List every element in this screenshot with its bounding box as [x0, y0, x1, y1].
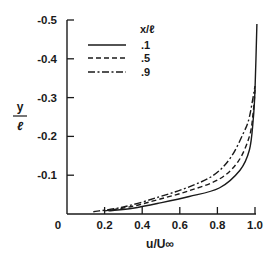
legend-label-2: .5	[141, 52, 150, 64]
axes	[67, 20, 256, 214]
y-tick-label: -0.1	[37, 169, 57, 181]
y-tick-label: -0.5	[37, 14, 57, 26]
y-tick-label: -0.3	[37, 92, 57, 104]
x-axis-label: u/U∞	[146, 237, 174, 251]
y-axis-label-numerator: y	[17, 100, 24, 114]
x-ticks: 00.20.40.60.81.0	[55, 207, 263, 231]
series-line-dashed	[105, 90, 255, 211]
legend-title: x/ℓ	[140, 23, 155, 35]
series-line-dash-dot	[93, 86, 255, 212]
y-ticks: -0.1-0.2-0.3-0.4-0.5	[37, 14, 74, 181]
legend: x/ℓ .1 .5 .9	[88, 23, 155, 78]
y-tick-label: -0.2	[37, 130, 57, 142]
y-axis-label: y ℓ	[13, 100, 27, 133]
chart: -0.1-0.2-0.3-0.4-0.5 00.20.40.60.81.0 y …	[0, 0, 274, 258]
series-group	[93, 24, 257, 212]
y-axis-label-denominator: ℓ	[17, 119, 24, 133]
y-tick-label: -0.4	[37, 53, 57, 65]
x-tick-label: 0.2	[97, 219, 113, 231]
legend-label-3: .9	[141, 66, 150, 78]
x-tick-label: 1.0	[247, 219, 263, 231]
x-tick-label: 0.4	[134, 219, 151, 231]
x-tick-label: 0.6	[172, 219, 188, 231]
legend-label-1: .1	[141, 39, 150, 51]
x-tick-label: 0.8	[209, 219, 226, 231]
x-tick-label: 0	[55, 219, 61, 231]
series-line-solid	[108, 24, 257, 211]
